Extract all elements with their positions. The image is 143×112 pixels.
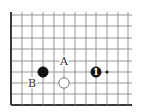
star-point-icon bbox=[105, 70, 108, 73]
star-points bbox=[105, 70, 108, 73]
black-stone bbox=[38, 67, 48, 77]
point-marker-a: A bbox=[59, 55, 69, 68]
stones: 1 bbox=[38, 67, 101, 88]
white-stone bbox=[59, 78, 69, 88]
board-grid bbox=[11, 12, 132, 105]
point-marker-b: B bbox=[28, 77, 36, 90]
go-board-diagram: AB 1 bbox=[0, 0, 143, 112]
stone-move-number: 1 bbox=[93, 67, 99, 77]
